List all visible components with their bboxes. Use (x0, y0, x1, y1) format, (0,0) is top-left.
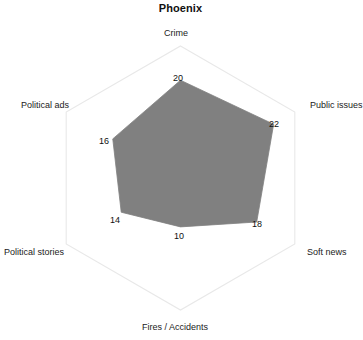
value-label-political-ads: 16 (99, 136, 109, 146)
axis-label-political-ads: Political ads (21, 100, 69, 110)
value-label-crime: 20 (173, 73, 183, 83)
axis-label-crime: Crime (164, 28, 188, 38)
value-label-fires-accidents: 10 (174, 231, 184, 241)
axis-label-political-stories: Political stories (4, 247, 64, 257)
axis-label-fires-accidents: Fires / Accidents (142, 322, 208, 332)
value-label-public-issues: 22 (269, 119, 279, 129)
value-label-soft-news: 18 (252, 219, 262, 229)
data-series-polygon (113, 80, 274, 227)
axis-label-soft-news: Soft news (307, 247, 347, 257)
value-label-political-stories: 14 (110, 215, 120, 225)
axis-label-public-issues: Public issues (310, 100, 363, 110)
